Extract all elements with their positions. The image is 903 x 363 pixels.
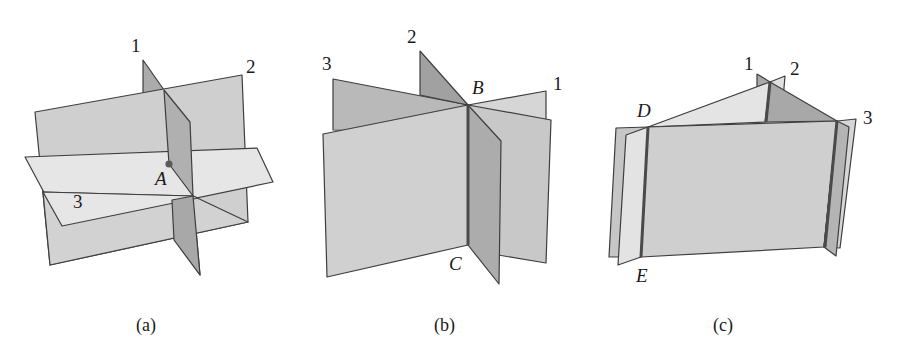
plane-label-1: 1	[744, 53, 754, 74]
plane-label-2: 2	[246, 56, 256, 77]
point-label-c: C	[449, 253, 462, 274]
caption-b: (b)	[434, 315, 455, 336]
three-planes-figure: 1 2 3 A (a) 3 2 1 B C (b)	[0, 0, 903, 363]
point-label-a: A	[153, 168, 167, 189]
point-label-e: E	[635, 265, 648, 286]
plane-1-front	[323, 105, 468, 277]
plane-2-back	[420, 51, 468, 105]
plane-label-1: 1	[131, 35, 141, 56]
plane-1-face	[648, 82, 770, 127]
point-label-d: D	[636, 100, 651, 121]
plane-label-2: 2	[407, 26, 417, 47]
plane-label-1: 1	[553, 73, 563, 94]
plane-3-face	[641, 121, 837, 257]
panel-a: 1 2 3 A (a)	[25, 35, 273, 336]
panel-c: 1 2 3 D E (c)	[609, 53, 873, 336]
point-label-b: B	[472, 77, 484, 98]
plane-label-2: 2	[790, 58, 800, 79]
plane-label-3: 3	[73, 191, 83, 212]
plane-label-3: 3	[322, 53, 332, 74]
plane-2-face	[765, 82, 837, 122]
caption-a: (a)	[136, 315, 156, 336]
panel-b: 3 2 1 B C (b)	[322, 26, 563, 336]
plane-label-3: 3	[863, 107, 873, 128]
caption-c: (c)	[713, 315, 733, 336]
point-a-marker	[165, 160, 172, 167]
